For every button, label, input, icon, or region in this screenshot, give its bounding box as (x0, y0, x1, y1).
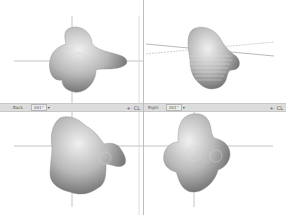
viewport-bottom-right[interactable] (144, 112, 286, 215)
viewport-toolbar-left: Back 001° ▾ + CL (0, 103, 143, 112)
perspective-view-canvas[interactable] (144, 0, 286, 103)
viewport-bottom-left[interactable] (0, 112, 143, 215)
chevron-down-icon[interactable]: ▾ (183, 105, 185, 110)
clear-icon[interactable]: CL (277, 105, 283, 111)
right-view-canvas[interactable] (144, 112, 286, 215)
clear-icon[interactable]: CL (134, 105, 140, 111)
angle-field[interactable]: 001° (166, 104, 182, 111)
viewport-top-left[interactable] (0, 0, 143, 103)
viewport-toolbar-right: Right 001° ▾ + CL (144, 103, 286, 112)
3d-object (188, 27, 239, 89)
add-icon[interactable]: + (270, 105, 274, 111)
angle-field[interactable]: 001° (31, 104, 47, 111)
3d-object (164, 114, 230, 192)
3d-object (50, 117, 126, 194)
front-view-canvas[interactable] (0, 0, 143, 103)
view-label[interactable]: Back (13, 105, 31, 110)
view-label[interactable]: Right (148, 105, 166, 110)
3d-object (50, 27, 127, 92)
viewport-top-right[interactable] (144, 0, 286, 103)
add-icon[interactable]: + (127, 105, 131, 111)
chevron-down-icon[interactable]: ▾ (48, 105, 50, 110)
back-view-canvas[interactable] (0, 112, 143, 215)
